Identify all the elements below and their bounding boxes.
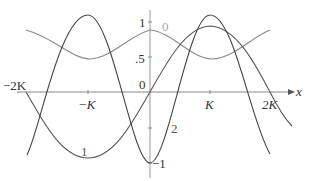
x-axis-label: x [296,85,302,98]
curve-label-0: 0 [162,20,169,33]
x-tick-label-k: K [205,98,214,111]
x-tick-label-neg-2k: −2K [3,79,26,92]
y-tick-label-neg-1: −1 [152,157,166,170]
curve-label-2: 2 [171,122,178,135]
chart: −2K −K K 2K x 1 .5 0 −1 0 1 2 [0,0,309,181]
x-tick-label-neg-k: −K [78,98,95,111]
curve-label-1: 1 [81,145,88,158]
x-tick-label-2k: 2K [262,98,277,111]
plot-area [0,0,309,181]
y-tick-label-1: 1 [139,16,146,29]
y-tick-label-0: 0 [139,78,146,91]
x-axis-arrow-icon [288,89,295,95]
y-tick-label-half: .5 [135,52,145,65]
